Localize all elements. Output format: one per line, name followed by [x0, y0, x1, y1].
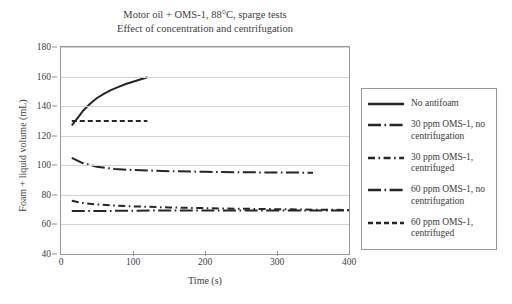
x-tick-label: 300 — [270, 257, 284, 268]
legend-item[interactable]: 30 ppm OMS-1, no centrifugation — [368, 119, 490, 142]
series-line — [72, 201, 349, 210]
gridline — [61, 195, 349, 196]
y-tick-mark — [52, 224, 57, 225]
y-tick-label: 180 — [37, 42, 51, 52]
y-tick-mark — [52, 47, 57, 48]
y-tick-mark — [52, 165, 57, 166]
y-axis: Foam + liquid volume (mL) 40608010012014… — [0, 46, 57, 255]
gridline — [61, 77, 349, 78]
chart-title: Motor oil + OMS-1, 88°C, sparge tests — [60, 8, 350, 22]
legend-line-swatch — [368, 152, 406, 163]
plot-inner — [61, 47, 349, 254]
y-tick-label: 40 — [42, 249, 52, 259]
legend-label: 30 ppm OMS-1, centrifuged — [411, 152, 490, 175]
legend-item[interactable]: 60 ppm OMS-1, centrifuged — [368, 217, 490, 240]
legend-label: 30 ppm OMS-1, no centrifugation — [411, 119, 490, 142]
x-tick-mark — [133, 251, 134, 256]
x-tick-label: 100 — [126, 257, 140, 268]
chart-legend: No antifoam30 ppm OMS-1, no centrifugati… — [361, 88, 497, 250]
legend-item[interactable]: No antifoam — [368, 98, 490, 110]
chart-title-block: Motor oil + OMS-1, 88°C, sparge tests Ef… — [60, 8, 350, 35]
legend-label: 60 ppm OMS-1, centrifuged — [411, 217, 490, 240]
x-tick-label: 400 — [342, 257, 356, 268]
y-tick-mark — [52, 254, 57, 255]
gridline — [61, 136, 349, 137]
plot-area — [60, 46, 350, 255]
y-tick-label: 100 — [37, 160, 51, 170]
legend-line-swatch — [368, 98, 406, 109]
x-axis-title: Time (s) — [60, 275, 350, 286]
y-tick-mark — [52, 76, 57, 77]
y-tick-mark — [52, 194, 57, 195]
y-tick-mark — [52, 106, 57, 107]
x-tick-mark — [277, 251, 278, 256]
gridline — [61, 224, 349, 225]
series-container — [61, 47, 349, 254]
y-tick-label: 160 — [37, 72, 51, 82]
gridline — [61, 106, 349, 107]
legend-label: 60 ppm OMS-1, no centrifugation — [411, 184, 490, 207]
x-axis: 0100200300400 — [60, 257, 350, 273]
series-line — [72, 77, 148, 125]
y-tick-label: 120 — [37, 131, 51, 141]
y-tick-mark — [52, 135, 57, 136]
chart-subtitle: Effect of concentration and centrifugati… — [60, 22, 350, 36]
legend-line-swatch — [368, 217, 406, 228]
y-tick-label: 60 — [42, 219, 52, 229]
y-tick-label: 140 — [37, 101, 51, 111]
legend-item[interactable]: 30 ppm OMS-1, centrifuged — [368, 152, 490, 175]
y-tick-label: 80 — [42, 190, 52, 200]
y-axis-title: Foam + liquid volume (mL) — [17, 56, 28, 256]
legend-line-swatch — [368, 184, 406, 195]
legend-line-swatch — [368, 119, 406, 130]
legend-label: No antifoam — [411, 98, 459, 110]
x-tick-label: 200 — [198, 257, 212, 268]
gridline — [61, 47, 349, 48]
x-tick-label: 0 — [59, 257, 64, 268]
legend-item[interactable]: 60 ppm OMS-1, no centrifugation — [368, 184, 490, 207]
x-tick-mark — [205, 251, 206, 256]
chart-figure: Motor oil + OMS-1, 88°C, sparge tests Ef… — [0, 0, 512, 304]
gridline — [61, 165, 349, 166]
